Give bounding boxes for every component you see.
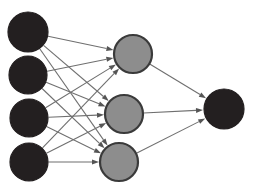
node-h1 [114,35,152,73]
arrowhead-h3-to-o1 [198,118,205,123]
arrowhead-i3-to-h2 [97,113,104,118]
node-i2 [9,56,47,94]
edge-h1-to-o1 [150,64,200,94]
edge-i2-to-h1 [47,59,106,71]
nodes-group [8,12,244,181]
edge-i1-to-h1 [48,36,107,48]
edge-h2-to-o1 [143,110,196,113]
arrowhead-i4-to-h2 [99,123,106,128]
arrowhead-h2-to-o1 [196,108,203,113]
arrowhead-i4-to-h3 [92,160,99,165]
arrowhead-i3-to-h3 [94,148,101,153]
node-i4 [10,143,48,181]
node-i3 [10,99,48,137]
node-o1 [204,89,244,129]
edge-i3-to-h3 [47,127,95,151]
edge-h3-to-o1 [136,122,199,154]
arrowhead-i1-to-h1 [106,46,113,51]
network-graph-canvas [0,0,256,195]
arrowhead-i2-to-h2 [98,102,105,107]
arrowhead-i2-to-h1 [106,57,113,62]
neural-network-diagram [0,0,256,195]
node-h3 [100,143,138,181]
arrowhead-i3-to-h1 [109,64,116,70]
node-i1 [8,12,48,52]
node-h2 [105,95,143,133]
arrowhead-h1-to-o1 [199,92,206,98]
edge-i1-to-h2 [44,45,104,96]
